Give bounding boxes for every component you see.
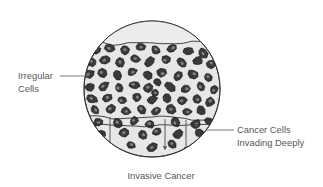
label-irregular-cells-line2: Cells (18, 83, 39, 94)
label-cancer-cells-line1: Cancer Cells (237, 124, 291, 135)
diagram-canvas: Irregular Cells Cancer Cells Invading De… (0, 0, 323, 187)
label-cancer-cells-line2: Invading Deeply (237, 137, 305, 148)
invasive-cancer-figure: Irregular Cells Cancer Cells Invading De… (0, 0, 323, 187)
label-irregular-cells-line1: Irregular (18, 70, 53, 81)
label-irregular-cells: Irregular Cells (18, 70, 53, 94)
figure-caption: Invasive Cancer (127, 170, 194, 181)
upper-stroma-zone (80, 15, 224, 45)
label-cancer-cells-invading-deeply: Cancer Cells Invading Deeply (237, 124, 305, 148)
tumor-cell-nucleus (154, 130, 157, 133)
tumor-cell-nucleus (161, 72, 165, 75)
